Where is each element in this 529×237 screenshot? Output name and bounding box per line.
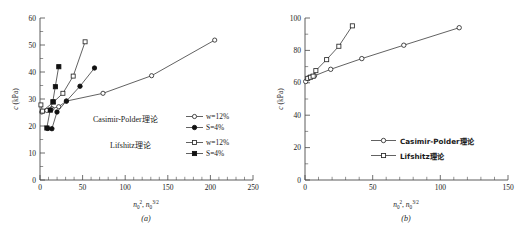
legend-item-lif-w12[interactable]: w=12% — [186, 138, 229, 147]
data-point — [83, 40, 87, 44]
series-lif-w12-a — [39, 40, 87, 113]
open-circle-icon — [381, 138, 385, 142]
open-square-icon — [193, 141, 197, 145]
x-tick-label: 200 — [205, 183, 217, 192]
y-tick-label: 40 — [29, 68, 37, 77]
data-point — [92, 66, 96, 70]
filled-square-icon — [192, 151, 196, 155]
chart-b-svg: 0 20 40 60 80 100 — [265, 0, 529, 237]
data-point — [325, 58, 329, 62]
legend-item-cp-s4[interactable]: S=4% — [186, 123, 224, 132]
y-tick-label: 80 — [294, 46, 302, 55]
data-point — [213, 38, 217, 42]
chart-panel-a: 0 10 20 30 40 50 60 — [0, 0, 265, 237]
y-tick-label: 40 — [294, 111, 302, 120]
open-square-icon — [382, 154, 386, 158]
chart-a-legend: w=12% S=4% w=12% S=4 — [186, 112, 229, 158]
x-tick-label: 100 — [435, 183, 447, 192]
data-point — [350, 24, 354, 28]
data-point — [311, 74, 315, 78]
svg-text:n02, n03/2: n02, n03/2 — [393, 199, 419, 209]
data-point — [101, 91, 105, 95]
y-tick-label: 0 — [297, 176, 301, 185]
data-point — [51, 100, 55, 104]
data-point — [57, 65, 61, 69]
legend-item-lif-s4[interactable]: S=4% — [186, 149, 224, 158]
data-point — [402, 43, 406, 47]
legend-label: S=4% — [206, 123, 224, 132]
y-tick-label: 20 — [29, 122, 37, 131]
data-point — [45, 126, 49, 130]
data-point — [337, 44, 341, 48]
y-tick-label: 20 — [294, 143, 302, 152]
legend-label: S=4% — [206, 149, 224, 158]
data-point — [314, 69, 318, 73]
data-point — [61, 91, 65, 95]
data-point — [55, 110, 59, 114]
chart-b-caption: (b) — [401, 214, 411, 223]
chart-a-x-ticks: 0 50 100 150 200 250 — [38, 175, 259, 192]
x-tick-label: 0 — [303, 183, 307, 192]
y-tick-label: 100 — [290, 14, 302, 23]
figure-container: 0 10 20 30 40 50 60 — [0, 0, 529, 237]
data-point — [50, 127, 54, 131]
data-point — [329, 67, 333, 71]
data-point — [360, 56, 364, 60]
chart-a-y-ticks: 0 10 20 30 40 50 60 — [29, 14, 46, 185]
legend-item-lifshitz-b[interactable]: Lifshitz理论 — [371, 152, 445, 161]
theory-label-lifshitz-a: Lifshitz理论 — [110, 140, 151, 150]
x-tick-label: 50 — [369, 183, 377, 192]
chart-b-y-ticks: 0 20 40 60 80 100 — [290, 14, 310, 185]
y-tick-label: 30 — [29, 95, 37, 104]
chart-b-legend: Casimir-Polder理论 Lifshitz理论 — [371, 137, 475, 161]
filled-circle-icon — [192, 125, 196, 129]
legend-label: Casimir-Polder理论 — [400, 137, 475, 146]
y-tick-label: 0 — [32, 176, 36, 185]
legend-item-cp-w12[interactable]: w=12% — [186, 112, 229, 121]
legend-label: Lifshitz理论 — [400, 152, 445, 161]
chart-b-x-axis-title: n02, n03/2 — [393, 199, 419, 209]
data-point — [53, 85, 57, 89]
series-cp-b — [304, 26, 462, 84]
data-point — [39, 103, 43, 107]
y-tick-label: 60 — [29, 14, 37, 23]
y-tick-label: 10 — [29, 149, 37, 158]
data-point — [150, 74, 154, 78]
legend-label: w=12% — [206, 138, 229, 147]
x-tick-label: 150 — [162, 183, 174, 192]
x-tick-label: 100 — [120, 183, 132, 192]
chart-a-x-axis-title: n02, n03/2 — [133, 199, 159, 209]
y-tick-label: 60 — [294, 78, 302, 87]
x-tick-label: 150 — [502, 183, 514, 192]
chart-b-y-axis-title: c (kPa) — [276, 88, 285, 110]
legend-label: w=12% — [206, 112, 229, 121]
chart-a-y-axis-title: c (kPa) — [11, 88, 20, 110]
chart-panel-b: 0 20 40 60 80 100 — [265, 0, 529, 237]
series-lif-b — [306, 24, 355, 81]
x-tick-label: 50 — [79, 183, 87, 192]
data-point — [64, 99, 68, 103]
data-point — [41, 109, 45, 113]
data-point — [78, 84, 82, 88]
data-point — [71, 74, 75, 78]
chart-b-x-ticks: 0 50 100 150 — [303, 175, 514, 192]
open-circle-icon — [192, 114, 196, 118]
chart-a-caption: (a) — [141, 214, 151, 223]
legend-item-casimir-polder-b[interactable]: Casimir-Polder理论 — [371, 137, 475, 146]
data-point — [48, 108, 52, 112]
x-tick-label: 0 — [38, 183, 42, 192]
theory-label-casimir-polder-a: Casimir-Polder理论 — [93, 114, 158, 124]
data-point — [457, 26, 461, 30]
svg-text:n02, n03/2: n02, n03/2 — [133, 199, 159, 209]
y-tick-label: 50 — [29, 41, 37, 50]
chart-a-svg: 0 10 20 30 40 50 60 — [0, 0, 265, 237]
x-tick-label: 250 — [247, 183, 259, 192]
